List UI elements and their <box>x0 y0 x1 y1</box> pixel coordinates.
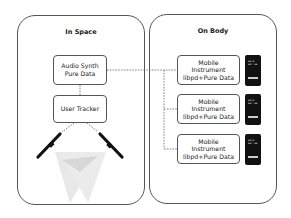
instrument-sublabel: libpd+Pure Data <box>183 153 234 161</box>
instrument-label: Mobile <box>198 98 218 106</box>
instrument-label: Mobile <box>198 59 218 67</box>
instrument-label: Instrument <box>191 66 225 74</box>
instrument-sublabel: libpd+Pure Data <box>183 113 234 121</box>
instrument-sublabel: libpd+Pure Data <box>183 74 234 82</box>
phone-button-bar <box>248 116 258 118</box>
phone-icon: ▪▪▫▪ ▪▪▫ ▪▪ <box>245 94 261 125</box>
phone-screen-text: ▪▪▫▪ ▪▪▫ ▪▪ <box>248 139 258 145</box>
user-tracker-box: User Tracker <box>53 95 107 123</box>
mobile-instrument-box-1: Mobile Instrument libpd+Pure Data <box>177 55 240 85</box>
instrument-label: Instrument <box>191 105 225 113</box>
audio-synth-sublabel: Pure Data <box>65 70 96 78</box>
on-body-title: On Body <box>150 27 276 35</box>
instrument-label: Instrument <box>191 145 225 153</box>
phone-screen-text: ▪▪▫▪ ▪▪▫ ▪▪ <box>248 99 258 105</box>
phone-button-bar <box>248 156 258 158</box>
instrument-label: Mobile <box>198 138 218 146</box>
phone-icon: ▪▪▫▪ ▪▪▫ ▪▪ <box>245 134 261 165</box>
in-space-title: In Space <box>18 28 144 36</box>
user-tracker-label: User Tracker <box>61 105 99 113</box>
phone-button-bar <box>248 77 258 79</box>
audio-synth-label: Audio Synth <box>61 62 98 70</box>
phone-screen-text: ▪▪▫▪ ▪▪▫ ▪▪ <box>248 60 258 66</box>
mobile-instrument-box-2: Mobile Instrument libpd+Pure Data <box>177 94 240 124</box>
phone-icon: ▪▪▫▪ ▪▪▫ ▪▪ <box>245 55 261 86</box>
audio-synth-box: Audio Synth Pure Data <box>53 55 107 85</box>
mobile-instrument-box-3: Mobile Instrument libpd+Pure Data <box>177 134 240 164</box>
